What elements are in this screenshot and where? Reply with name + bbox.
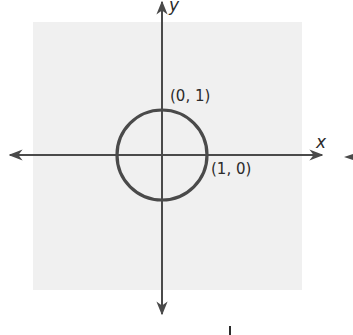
coordinate-plane-figure: y x (0, 1) (1, 0) (0, 0, 353, 335)
x-axis-label: x (316, 134, 326, 151)
cropped-arrow-fragment (344, 154, 353, 160)
point-label-0-1: (0, 1) (170, 89, 210, 104)
plot-svg (0, 0, 353, 335)
stray-mark (229, 326, 231, 335)
point-label-1-0: (1, 0) (211, 162, 251, 177)
y-axis-label: y (169, 0, 179, 14)
